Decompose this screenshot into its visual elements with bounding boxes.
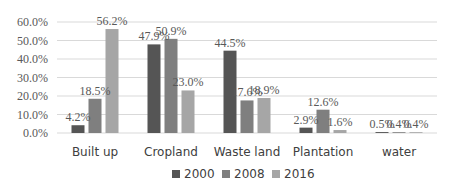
legend-swatch-2000 [172, 170, 180, 178]
data-label: 4.2% [66, 110, 91, 124]
data-label: 18.9% [249, 83, 280, 97]
grouped-bar-chart: 0.0%10.0%20.0%30.0%40.0%50.0%60.0% 4.2%1… [0, 0, 455, 192]
legend-label: 2016 [284, 167, 315, 181]
bar-2000 [148, 44, 161, 133]
y-tick-label: 60.0% [17, 15, 48, 29]
data-label: 44.5% [215, 36, 246, 50]
bar-2000 [376, 132, 389, 133]
bar-2016 [258, 98, 271, 133]
x-tick-label: Waste land [214, 145, 281, 159]
data-label: 56.2% [97, 14, 128, 28]
x-axis: Built upCroplandWaste landPlantationwate… [72, 145, 416, 159]
legend-label: 2000 [184, 167, 215, 181]
bar-2016 [410, 132, 423, 133]
data-label: 1.6% [328, 115, 353, 129]
bar-2016 [334, 130, 347, 133]
bar-2016 [106, 29, 119, 133]
bar-2000 [300, 128, 313, 133]
bar-2008 [393, 132, 406, 133]
data-label: 2.9% [294, 113, 319, 127]
data-label: 0.4% [404, 117, 429, 131]
legend-swatch-2016 [272, 170, 280, 178]
bar-2008 [241, 100, 254, 133]
y-axis: 0.0%10.0%20.0%30.0%40.0%50.0%60.0% [17, 15, 48, 140]
y-tick-label: 20.0% [17, 89, 48, 103]
legend-label: 2008 [234, 167, 265, 181]
bar-2016 [182, 90, 195, 133]
y-tick-label: 10.0% [17, 108, 48, 122]
data-label: 23.0% [173, 75, 204, 89]
y-tick-label: 30.0% [17, 71, 48, 85]
x-tick-label: Plantation [293, 145, 354, 159]
y-tick-label: 50.0% [17, 34, 48, 48]
legend: 200020082016 [172, 167, 315, 181]
data-label: 50.9% [156, 24, 187, 38]
x-tick-label: Cropland [144, 145, 198, 159]
x-tick-label: water [382, 145, 416, 159]
data-label: 18.5% [80, 84, 111, 98]
y-tick-label: 40.0% [17, 52, 48, 66]
bar-2000 [72, 125, 85, 133]
legend-swatch-2008 [222, 170, 230, 178]
y-tick-label: 0.0% [23, 126, 48, 140]
data-label: 12.6% [308, 95, 339, 109]
x-tick-label: Built up [72, 145, 118, 159]
